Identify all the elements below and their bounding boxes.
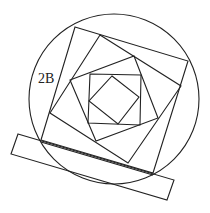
region-label-2b: 2B: [38, 71, 54, 86]
third-square: [70, 56, 158, 141]
second-square: [50, 35, 181, 163]
nested-squares-diagram: 2B: [0, 0, 210, 213]
outer-square: [41, 27, 188, 173]
base-inner-line: [41, 142, 153, 175]
innermost-diamond: [89, 76, 139, 124]
base-rectangle: [11, 134, 174, 200]
circumscribed-circle: [29, 14, 199, 184]
inner-square: [88, 74, 141, 125]
